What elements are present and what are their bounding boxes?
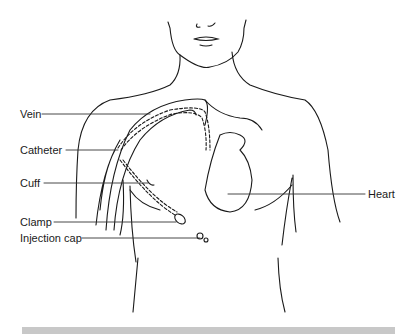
left-neck-shoulder bbox=[76, 55, 180, 218]
catheter-line-2 bbox=[121, 113, 206, 150]
label-clamp: Clamp bbox=[20, 216, 52, 228]
label-vein: Vein bbox=[20, 108, 41, 120]
mouth bbox=[194, 37, 218, 46]
aorta bbox=[205, 100, 262, 130]
left-pectoral bbox=[120, 180, 136, 262]
chest-curve-right bbox=[255, 185, 292, 210]
right-neck-shoulder bbox=[232, 52, 340, 222]
catheter-tube bbox=[120, 160, 177, 215]
injection-cap-end bbox=[204, 238, 208, 242]
label-injection-cap: Injection cap bbox=[20, 232, 82, 244]
label-cuff: Cuff bbox=[20, 177, 40, 189]
vein-outer bbox=[106, 99, 208, 230]
label-heart: Heart bbox=[368, 188, 395, 200]
footer-bar bbox=[22, 327, 395, 334]
clamp-shape bbox=[173, 212, 187, 226]
left-flank bbox=[133, 258, 138, 312]
nose bbox=[196, 23, 215, 27]
right-flank bbox=[278, 258, 285, 312]
right-pectoral bbox=[282, 175, 296, 245]
label-catheter: Catheter bbox=[20, 144, 62, 156]
vein-inner bbox=[114, 110, 196, 230]
anatomy-illustration bbox=[0, 0, 414, 334]
heart-outline bbox=[205, 133, 252, 213]
